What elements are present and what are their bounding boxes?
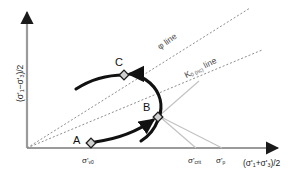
construction-lines-group (159, 81, 222, 148)
tick-subscript-sigma-crit: crit (194, 160, 201, 165)
stress-path-figure: (σ'1−σ'3)/2 (σ'1+σ'3)/2 φ line K0 (nc) l… (0, 0, 307, 179)
x-axis-label-plus: +σ' (256, 158, 268, 168)
y-axis-label-sub2: 3 (19, 75, 25, 78)
construction-line-b-to-k0 (159, 81, 199, 116)
x-axis-label: (σ'1+σ'3)/2 (243, 159, 280, 169)
y-axis-label-minus: −σ' (15, 78, 25, 90)
tick-subscript-sigma-p: p (222, 160, 225, 165)
point-label-C: C (115, 57, 123, 68)
x-axis-label-close: )/2 (270, 158, 280, 168)
figure-canvas (0, 0, 307, 179)
tick-label-sigma-crit: σ'crit (188, 157, 201, 166)
point-label-B: B (143, 102, 150, 113)
stress-path-segment-c-tail (76, 75, 124, 89)
point-marker-A[interactable] (86, 138, 96, 148)
tick-label-sigma-v0: σ'v0 (82, 157, 94, 166)
tick-label-sigma-p: σ'p (216, 157, 225, 166)
point-marker-C[interactable] (119, 70, 129, 80)
phi-line (27, 8, 250, 148)
y-axis-label-sub1: 1 (19, 89, 25, 92)
y-axis-label: (σ'1−σ'3)/2 (16, 65, 26, 102)
x-axis-label-open: (σ' (243, 158, 253, 168)
y-axis-label-close: )/2 (15, 65, 25, 75)
point-label-A: A (73, 135, 80, 146)
y-axis-label-open: (σ' (15, 92, 25, 102)
k0-line (27, 50, 262, 148)
tick-subscript-sigma-v0: v0 (88, 160, 93, 165)
